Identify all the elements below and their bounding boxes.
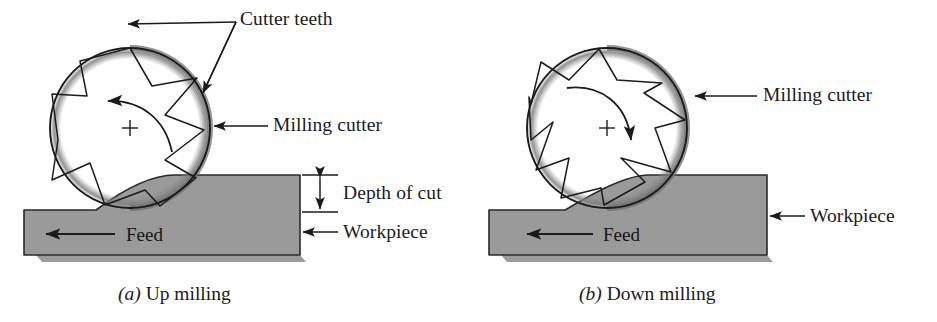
workpiece-shadow (501, 255, 773, 262)
milling-operations-figure: Cutter teeth Milling cutter Depth of cut… (0, 0, 937, 322)
caption-index: (a) (118, 283, 141, 304)
label-milling-cutter: Milling cutter (273, 114, 382, 136)
panel-down-milling: Milling cutter Workpiece Feed (b) Down m… (469, 0, 937, 322)
caption-text: Up milling (146, 283, 231, 304)
caption-index: (b) (579, 283, 602, 304)
label-cutter-teeth: Cutter teeth (240, 8, 333, 30)
caption-up-milling: (a) Up milling (118, 283, 231, 305)
panel-up-milling: Cutter teeth Milling cutter Depth of cut… (0, 0, 468, 322)
caption-text: Down milling (607, 283, 716, 304)
down-milling-drawing (469, 0, 937, 322)
caption-down-milling: (b) Down milling (579, 283, 716, 305)
label-workpiece: Workpiece (343, 221, 428, 243)
workpiece-shadow (36, 255, 306, 262)
label-feed: Feed (126, 224, 163, 246)
label-depth-of-cut: Depth of cut (343, 182, 442, 204)
up-milling-drawing (0, 0, 468, 322)
label-milling-cutter: Milling cutter (763, 84, 872, 106)
label-workpiece: Workpiece (810, 205, 895, 227)
label-feed: Feed (603, 224, 640, 246)
depth-of-cut-dimension (302, 175, 338, 212)
